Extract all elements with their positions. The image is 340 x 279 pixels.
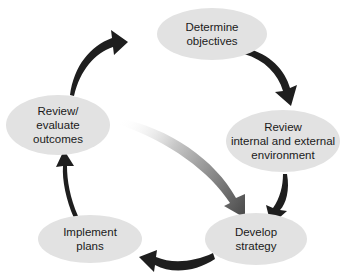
node-label-line: evaluate — [33, 118, 83, 132]
node-label-line: internal and external — [231, 134, 335, 148]
node-label-line: strategy — [235, 239, 277, 253]
node-label-line: plans — [63, 239, 117, 253]
arrow-determine-to-review-icon — [244, 48, 297, 106]
node-develop-strategy: Develop strategy — [205, 213, 307, 265]
node-evaluate-outcomes: Review/ evaluate outcomes — [6, 95, 110, 155]
arrow-develop-to-implement-icon — [139, 250, 215, 272]
node-label-line: environment — [231, 148, 335, 162]
node-determine-objectives: Determine objectives — [157, 8, 267, 60]
node-label-line: Determine — [185, 20, 238, 34]
node-label-line: outcomes — [33, 132, 83, 146]
node-implement-plans: Implement plans — [38, 215, 142, 263]
node-review-environment: Review internal and external environment — [226, 110, 340, 172]
node-label-line: Review/ — [33, 104, 83, 118]
arrow-evaluate-to-determine-icon — [70, 30, 128, 96]
node-label-line: Review — [231, 120, 335, 134]
arrow-evaluate-to-develop-gradient-icon — [118, 118, 245, 218]
node-label-line: Develop — [235, 225, 277, 239]
arrow-implement-to-evaluate-icon — [56, 150, 78, 218]
node-label-line: objectives — [185, 34, 238, 48]
node-label-line: Implement — [63, 225, 117, 239]
